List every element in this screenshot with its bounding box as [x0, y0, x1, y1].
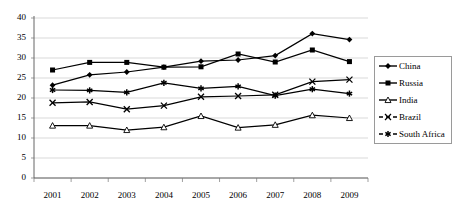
y-tick-label: 10 [4, 133, 26, 142]
data-point-diamond [309, 31, 315, 37]
y-tick-label: 30 [4, 53, 26, 62]
data-point-square [273, 60, 278, 65]
x-tick-label: 2002 [70, 191, 110, 200]
y-tick-label: 25 [4, 73, 26, 82]
legend-marker-cross-icon [377, 111, 399, 123]
series-line [53, 80, 350, 110]
y-tick-label: 35 [4, 33, 26, 42]
data-point-cross [385, 114, 391, 120]
x-tick-label: 2009 [329, 191, 369, 200]
data-point-diamond [124, 69, 130, 75]
x-tick-label: 2003 [107, 191, 147, 200]
series-brazil [50, 77, 353, 113]
data-point-square [161, 65, 166, 70]
y-tick-label: 40 [4, 13, 26, 22]
data-point-diamond [87, 72, 93, 78]
data-point-diamond [347, 37, 353, 43]
x-tick-label: 2001 [33, 191, 73, 200]
y-tick-label: 0 [4, 173, 26, 182]
legend-label: Russia [399, 78, 423, 88]
legend-marker-triangle-icon [377, 94, 399, 106]
x-tick-label: 2008 [292, 191, 332, 200]
data-point-square [310, 48, 315, 53]
series-china [50, 31, 353, 88]
data-point-square [124, 60, 129, 65]
data-point-square [386, 80, 391, 85]
legend-item-india[interactable]: India [375, 91, 451, 108]
data-point-square [236, 52, 241, 57]
data-point-diamond [272, 53, 278, 59]
x-tick-label: 2005 [181, 191, 221, 200]
data-point-diamond [198, 58, 204, 64]
legend-item-china[interactable]: China [375, 57, 451, 74]
legend-item-russia[interactable]: Russia [375, 74, 451, 91]
legend-item-brazil[interactable]: Brazil [375, 108, 451, 125]
legend-item-south-africa[interactable]: South Africa [375, 125, 451, 142]
x-tick-label: 2004 [144, 191, 184, 200]
data-point-diamond [385, 63, 391, 69]
legend-marker-diamond-icon [377, 60, 399, 72]
gridlines [34, 18, 368, 178]
legend-marker-square-icon [377, 77, 399, 89]
legend-marker-asterisk-icon [377, 128, 399, 140]
data-point-square [347, 59, 352, 64]
x-tick-label: 2006 [218, 191, 258, 200]
chart-legend: ChinaRussiaIndiaBrazilSouth Africa [374, 56, 452, 144]
legend-label: Brazil [399, 112, 421, 122]
x-tick-label: 2007 [255, 191, 295, 200]
legend-label: South Africa [399, 129, 445, 139]
legend-label: China [399, 61, 421, 71]
line-chart: 0510152025303540 20012002200320042005200… [0, 0, 454, 213]
data-point-square [50, 68, 55, 73]
y-tick-label: 15 [4, 113, 26, 122]
data-point-triangle [198, 113, 204, 119]
y-tick-label: 20 [4, 93, 26, 102]
series-south-africa [50, 80, 352, 99]
y-tick-label: 5 [4, 153, 26, 162]
series-layer [50, 31, 353, 133]
legend-label: India [399, 95, 418, 105]
data-point-square [199, 64, 204, 69]
series-india [50, 112, 353, 132]
data-point-square [87, 60, 92, 65]
